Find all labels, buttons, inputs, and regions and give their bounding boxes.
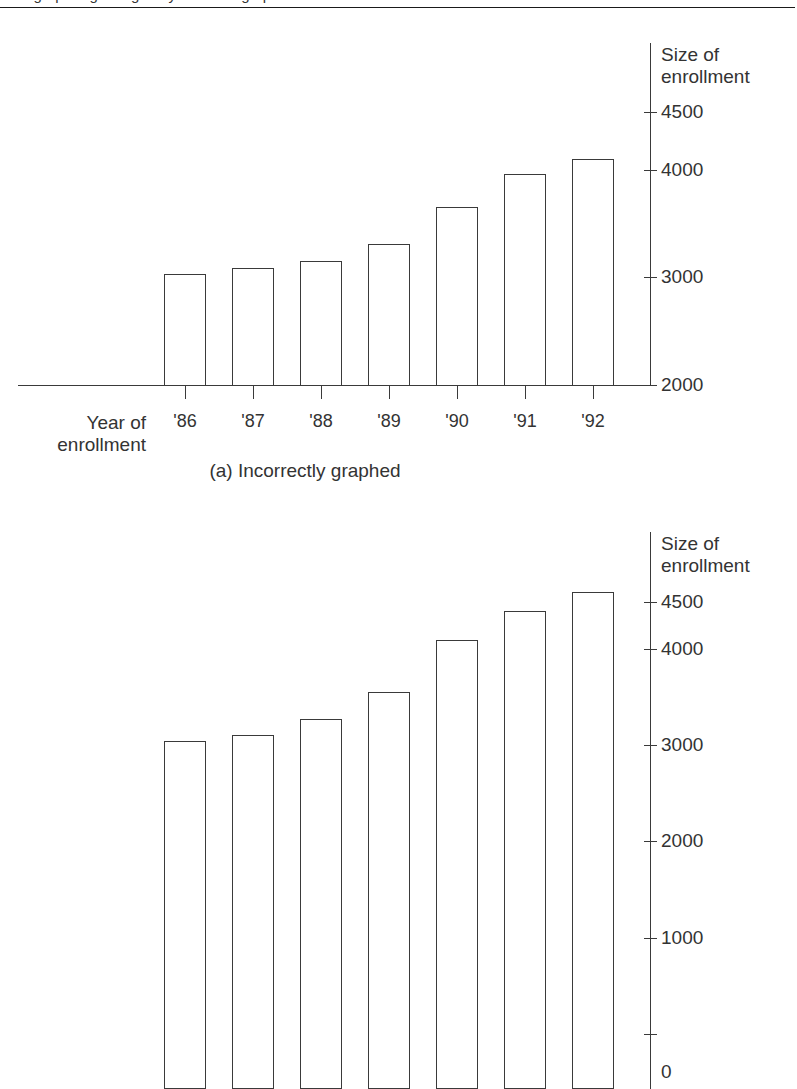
chart-b-y-tick-label: 3000 <box>661 735 703 754</box>
chart-b-bar <box>164 741 206 1089</box>
chart-b-y-tick <box>644 649 657 650</box>
chart-b-correctly-graphed: Size of enrollment 4500 4000 3000 2000 1… <box>0 0 797 1089</box>
chart-b-y-tick <box>644 841 657 842</box>
chart-b-y-tick-label: 1000 <box>661 928 703 947</box>
chart-b-bar <box>300 719 342 1089</box>
chart-b-y-tick <box>644 602 657 603</box>
chart-b-bar <box>436 640 478 1089</box>
chart-b-y-tick <box>644 938 657 939</box>
chart-b-bar <box>232 735 274 1089</box>
chart-b-y-axis <box>650 532 651 1089</box>
figure-page: …a graph regarding the y-axis of a graph… <box>0 0 797 1089</box>
chart-b-y-tick <box>644 1034 657 1035</box>
chart-b-y-tick <box>644 745 657 746</box>
chart-b-y-tick-label: 0 <box>661 1062 672 1081</box>
chart-b-y-axis-title: Size of enrollment <box>661 533 791 577</box>
chart-b-y-tick-label: 4500 <box>661 592 703 611</box>
chart-b-y-tick-label: 2000 <box>661 831 703 850</box>
chart-b-y-tick-label: 4000 <box>661 639 703 658</box>
chart-b-bar <box>572 592 614 1089</box>
chart-b-bar <box>368 692 410 1089</box>
chart-b-bar <box>504 611 546 1089</box>
